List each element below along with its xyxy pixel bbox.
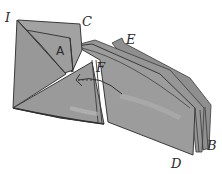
left-square bbox=[13, 20, 104, 124]
origami-illustration: I C A E F B D bbox=[0, 0, 222, 174]
label-c: C bbox=[82, 14, 92, 29]
label-f: F bbox=[95, 60, 106, 75]
label-d: D bbox=[170, 156, 182, 171]
label-b: B bbox=[206, 138, 217, 153]
label-a: A bbox=[56, 44, 65, 58]
origami-diagram: I C A E F B D bbox=[0, 0, 222, 174]
label-e: E bbox=[125, 32, 136, 47]
label-i: I bbox=[4, 10, 11, 25]
